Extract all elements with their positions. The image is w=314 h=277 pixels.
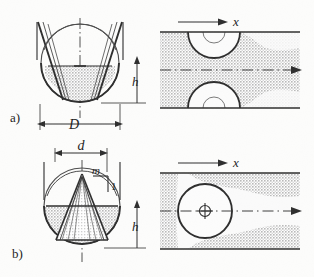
axis-label-x-a: x <box>232 14 239 29</box>
panel-a-plan-view: x <box>160 14 302 108</box>
panel-b-plan-view: x <box>160 155 302 249</box>
diameter-label-D: D <box>68 117 79 132</box>
throat-diameter-label-d: d <box>78 138 86 153</box>
slope-denominator-label-1: 1 <box>111 180 117 192</box>
slope-numerator-label-m: m <box>92 164 100 176</box>
panel-caption-a: a) <box>10 110 20 125</box>
flow-arrow-top-b <box>178 160 228 167</box>
figure-container: h D a) x <box>0 0 314 277</box>
axis-label-x-b: x <box>232 155 239 170</box>
slope-indicator-b <box>93 176 108 192</box>
technical-figure-svg: h D a) x <box>0 0 314 277</box>
panel-b-section-view: d <box>12 138 146 262</box>
depth-label-b: h <box>132 219 139 234</box>
flow-arrow-top-a <box>178 19 228 26</box>
panel-a-section-view: h D a) <box>10 18 146 132</box>
depth-label-a: h <box>132 74 139 89</box>
panel-caption-b: b) <box>12 246 23 261</box>
